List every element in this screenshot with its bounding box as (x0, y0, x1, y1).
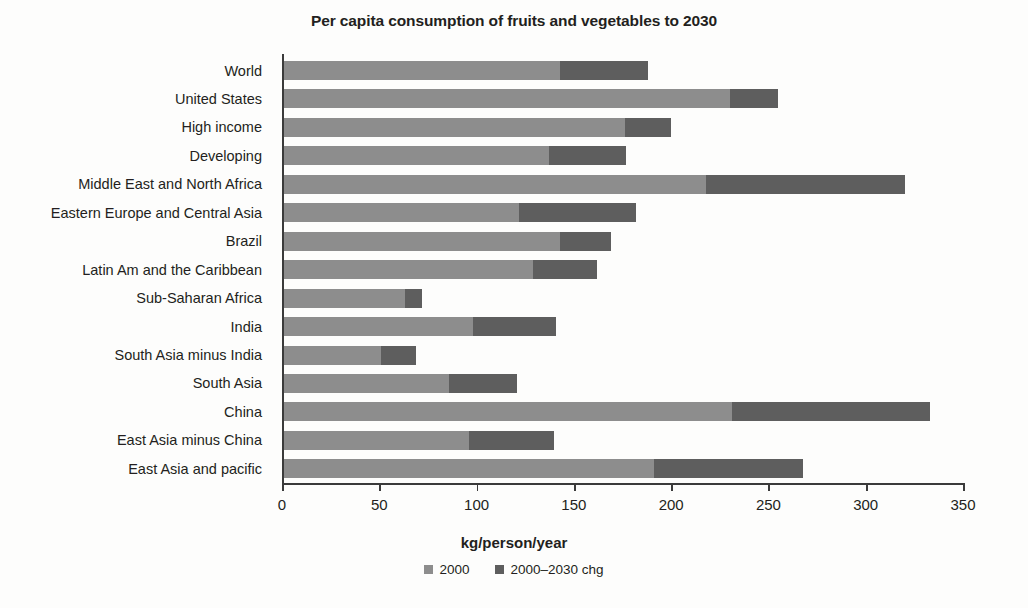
bar-segment-change (533, 260, 597, 279)
y-axis-tick-label: South Asia (193, 374, 262, 392)
bar-row (284, 374, 517, 393)
y-axis-category-labels: WorldUnited StatesHigh incomeDevelopingM… (0, 54, 272, 484)
bar-segment-2000 (284, 289, 405, 308)
legend-label: 2000 (439, 562, 469, 577)
bar-segment-change (405, 289, 423, 308)
x-axis-tick-label: 250 (756, 496, 781, 513)
bar-segment-change (560, 232, 611, 251)
bar-segment-2000 (284, 317, 473, 336)
bar-row (284, 61, 648, 80)
bar-segment-2000 (284, 374, 449, 393)
bar-row (284, 459, 803, 478)
x-axis-tick (671, 483, 673, 491)
chart-container: Per capita consumption of fruits and veg… (0, 0, 1028, 608)
y-axis-tick-label: China (224, 403, 262, 421)
legend-swatch-icon (424, 565, 433, 574)
bar-segment-2000 (284, 346, 381, 365)
y-axis-tick-label: United States (175, 90, 262, 108)
x-axis-tick (963, 483, 965, 491)
bar-row (284, 146, 626, 165)
bar-segment-change (381, 346, 416, 365)
bar-segment-2000 (284, 402, 732, 421)
y-axis-tick-label: Eastern Europe and Central Asia (51, 204, 262, 222)
bar-segment-change (730, 89, 779, 108)
chart-legend: 20002000–2030 chg (0, 562, 1028, 577)
bar-row (284, 232, 611, 251)
bar-segment-2000 (284, 175, 706, 194)
bar-row (284, 317, 556, 336)
x-axis-tick-label: 200 (659, 496, 684, 513)
bar-row (284, 203, 636, 222)
x-axis-tick (379, 483, 381, 491)
x-axis-tick-label: 0 (278, 496, 286, 513)
legend-item[interactable]: 2000 (424, 562, 469, 577)
x-axis-tick (866, 483, 868, 491)
y-axis-tick-label: World (224, 62, 262, 80)
bar-segment-change (560, 61, 648, 80)
bar-segment-2000 (284, 118, 625, 137)
x-axis-tick-label: 50 (371, 496, 388, 513)
x-axis-tick-label: 300 (853, 496, 878, 513)
x-axis-title: kg/person/year (0, 534, 1028, 551)
x-axis-tick-label: 150 (561, 496, 586, 513)
x-axis-tick (282, 483, 284, 491)
y-axis-tick-label: East Asia minus China (117, 431, 262, 449)
bar-segment-change (549, 146, 627, 165)
x-axis-tick-label: 100 (464, 496, 489, 513)
bar-row (284, 118, 671, 137)
legend-swatch-icon (495, 565, 504, 574)
chart-title: Per capita consumption of fruits and veg… (0, 12, 1028, 30)
legend-item[interactable]: 2000–2030 chg (495, 562, 603, 577)
y-axis-tick-label: Sub-Saharan Africa (136, 289, 262, 307)
bar-segment-2000 (284, 89, 730, 108)
x-axis-tick-label: 350 (950, 496, 975, 513)
bar-segment-2000 (284, 260, 533, 279)
y-axis-tick-label: East Asia and pacific (128, 460, 262, 478)
bar-row (284, 346, 416, 365)
bar-row (284, 402, 930, 421)
x-axis-line (282, 483, 965, 485)
x-axis-tick (768, 483, 770, 491)
x-axis-tick (477, 483, 479, 491)
y-axis-tick-label: Latin Am and the Caribbean (82, 261, 262, 279)
bar-segment-change (473, 317, 557, 336)
bar-segment-change (625, 118, 672, 137)
bar-row (284, 89, 778, 108)
bar-segment-2000 (284, 232, 560, 251)
y-axis-tick-label: Brazil (226, 232, 262, 250)
bar-segment-change (706, 175, 904, 194)
bar-segment-change (469, 431, 555, 450)
y-axis-tick-label: Developing (189, 147, 262, 165)
bar-segment-2000 (284, 146, 549, 165)
y-axis-tick-label: Middle East and North Africa (78, 175, 262, 193)
bar-row (284, 431, 554, 450)
bar-segment-2000 (284, 61, 560, 80)
bar-segment-change (519, 203, 636, 222)
bar-row (284, 175, 905, 194)
bar-segment-2000 (284, 431, 469, 450)
bar-segment-change (732, 402, 930, 421)
plot-area: 050100150200250300350 (282, 54, 963, 484)
y-axis-tick-label: India (231, 318, 262, 336)
legend-label: 2000–2030 chg (510, 562, 603, 577)
x-axis-tick (574, 483, 576, 491)
bar-row (284, 260, 597, 279)
y-axis-tick-label: South Asia minus India (114, 346, 262, 364)
bar-row (284, 289, 422, 308)
bar-segment-change (654, 459, 804, 478)
y-axis-tick-label: High income (181, 118, 262, 136)
bar-segment-2000 (284, 203, 519, 222)
bar-segment-2000 (284, 459, 654, 478)
bar-segment-change (449, 374, 517, 393)
